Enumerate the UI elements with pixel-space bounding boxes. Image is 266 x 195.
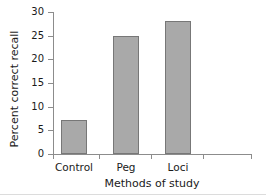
x-tick-mark-1 xyxy=(99,154,100,159)
x-tick-mark-4 xyxy=(251,154,252,159)
y-tick-label-20: 20 xyxy=(22,54,44,64)
bar-peg xyxy=(113,36,139,154)
y-tick-label-15: 15 xyxy=(22,78,44,88)
y-tick-label-10: 10 xyxy=(22,102,44,112)
x-tick-mark-3 xyxy=(203,154,204,159)
y-tick-mark-5 xyxy=(48,130,53,131)
bar-chart-figure: Percent correct recall 30 25 20 15 10 5 … xyxy=(0,0,266,195)
y-axis-title: Percent correct recall xyxy=(9,14,21,164)
y-tick-mark-15 xyxy=(48,83,53,84)
x-tick-label-loci: Loci xyxy=(168,161,189,173)
y-tick-label-0: 0 xyxy=(22,149,44,159)
x-tick-mark-2 xyxy=(151,154,152,159)
x-tick-label-peg: Peg xyxy=(116,161,135,173)
y-tick-mark-30 xyxy=(48,12,53,13)
y-tick-mark-20 xyxy=(48,59,53,60)
bar-control xyxy=(61,120,87,154)
y-tick-mark-10 xyxy=(48,107,53,108)
y-axis-line xyxy=(53,12,54,154)
y-tick-label-5: 5 xyxy=(22,125,44,135)
x-tick-mark-0 xyxy=(53,154,54,159)
x-axis-line xyxy=(53,154,251,155)
y-tick-label-25: 25 xyxy=(22,31,44,41)
y-tick-label-30: 30 xyxy=(22,7,44,17)
bar-loci xyxy=(165,21,191,154)
y-tick-mark-25 xyxy=(48,36,53,37)
x-axis-title: Methods of study xyxy=(53,177,251,190)
x-tick-label-control: Control xyxy=(55,161,93,173)
